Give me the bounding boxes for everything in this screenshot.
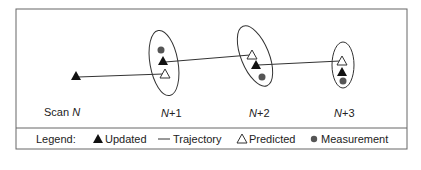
updated-triangle-icon — [71, 71, 81, 80]
tracking-diagram: Scan N N+1 N+2 N+3 Legend: Updated Traje… — [0, 0, 421, 170]
legend-label-updated: Updated — [105, 133, 147, 145]
updated-triangle-icon — [337, 67, 347, 76]
measurement-circle-icon — [158, 47, 165, 54]
measurement-circle-icon — [259, 74, 266, 81]
legend-label-measurement: Measurement — [321, 133, 388, 145]
scan-label-n1: N+1 — [161, 107, 182, 119]
open-triangle-icon — [237, 134, 247, 143]
trajectory — [78, 55, 340, 77]
legend-label-predicted: Predicted — [249, 133, 295, 145]
filled-triangle-icon — [93, 134, 103, 143]
filled-circle-icon — [311, 136, 317, 142]
scan-label-n2: N+2 — [249, 107, 270, 119]
measurement-circle-icon — [340, 78, 347, 85]
scan-label-n3: N+3 — [334, 107, 355, 119]
predicted-triangle-icon — [160, 69, 170, 78]
scan-n1-group — [144, 28, 183, 98]
predicted-triangle-icon — [337, 56, 347, 65]
scan-n3-group — [332, 42, 354, 88]
scan-label-n: Scan N — [44, 106, 80, 118]
updated-triangle-icon — [158, 56, 168, 65]
legend-label-trajectory: Trajectory — [173, 133, 222, 145]
legend-title: Legend: — [36, 133, 76, 145]
legend: Legend: Updated Trajectory Predicted Mea… — [36, 133, 388, 145]
predicted-triangle-icon — [247, 50, 257, 59]
